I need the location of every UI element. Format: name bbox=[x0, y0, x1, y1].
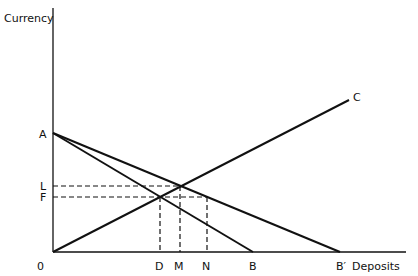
point-label-D: D bbox=[155, 260, 163, 273]
point-label-M: M bbox=[174, 260, 184, 273]
y-axis-label: Currency bbox=[4, 12, 54, 25]
line-AB bbox=[53, 133, 253, 252]
origin-label: 0 bbox=[37, 260, 44, 273]
point-label-B: B bbox=[249, 260, 257, 273]
point-label-F: F bbox=[40, 191, 46, 204]
currency-deposits-diagram: Currency Deposits 0 A C L F D M N B B′ bbox=[0, 0, 418, 276]
point-label-N: N bbox=[202, 260, 210, 273]
point-label-A: A bbox=[39, 128, 47, 141]
x-axis-label: Deposits bbox=[352, 260, 400, 273]
point-label-C: C bbox=[353, 91, 361, 104]
line-AB-prime bbox=[53, 133, 340, 252]
point-label-B-prime: B′ bbox=[336, 260, 347, 273]
line-0C bbox=[53, 100, 349, 252]
